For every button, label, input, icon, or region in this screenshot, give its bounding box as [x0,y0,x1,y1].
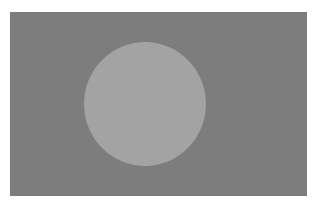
flag-field [10,12,307,196]
flag-disc [84,42,206,166]
